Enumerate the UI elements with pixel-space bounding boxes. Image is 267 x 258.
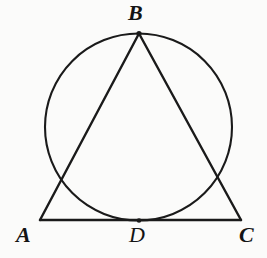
segment-bc [139, 34, 241, 221]
figure-canvas [0, 0, 267, 258]
point-label-d: D [129, 224, 145, 246]
segment-ab [40, 34, 139, 221]
circumscribed-circle [45, 34, 232, 221]
point-label-a: A [16, 224, 31, 246]
geometry-figure: A B C D [0, 0, 267, 258]
vertex-dot-b [136, 31, 141, 36]
point-label-c: C [239, 224, 254, 246]
point-label-b: B [128, 2, 143, 24]
